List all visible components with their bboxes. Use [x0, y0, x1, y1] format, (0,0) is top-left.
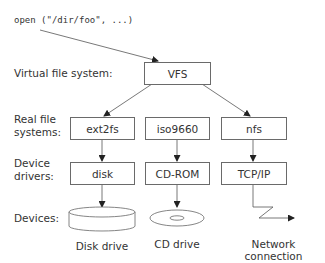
network-connection-caption: Network connection — [222, 238, 325, 262]
nfs-box: nfs — [221, 117, 287, 140]
real-fs-layer-label-2: systems: — [14, 126, 61, 139]
cd-drive-caption: CD drive — [142, 238, 212, 250]
open-call: open ("/dir/foo", ...) — [14, 15, 133, 25]
cd-icon — [150, 210, 204, 226]
vfs-box: VFS — [144, 62, 211, 85]
cdrom-driver-box: CD-ROM — [145, 162, 210, 185]
real-fs-layer-label-1: Real file — [14, 113, 56, 126]
drivers-layer-label-2: drivers: — [14, 170, 54, 183]
drivers-layer-label-1: Device — [14, 157, 50, 170]
disk-drive-icon — [69, 207, 135, 231]
iso9660-box: iso9660 — [145, 117, 210, 140]
tcpip-driver-box: TCP/IP — [221, 162, 287, 185]
ext2fs-box: ext2fs — [70, 117, 135, 140]
vfs-layer-label: Virtual file system: — [14, 67, 112, 80]
devices-layer-label: Devices: — [14, 212, 59, 225]
disk-drive-caption: Disk drive — [62, 240, 142, 252]
disk-driver-box: disk — [70, 162, 135, 185]
